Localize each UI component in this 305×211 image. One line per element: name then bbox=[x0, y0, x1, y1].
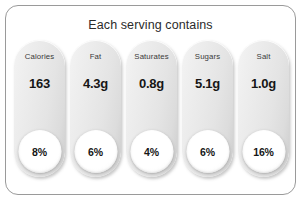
nutrient-label: Sugars bbox=[182, 52, 233, 61]
nutrient-pill-calories: Calories 163 8% bbox=[14, 40, 65, 177]
nutrient-label: Calories bbox=[14, 52, 65, 61]
reference-intake-badge: 6% bbox=[186, 130, 229, 173]
reference-intake-value: 8% bbox=[32, 146, 47, 158]
nutrient-label: Fat bbox=[70, 52, 121, 61]
nutrition-label-panel: Each serving contains Calories 163 8% Fa… bbox=[5, 5, 296, 195]
reference-intake-value: 6% bbox=[88, 146, 103, 158]
nutrient-pill-row: Calories 163 8% Fat 4.3g 6% Saturates 0.… bbox=[14, 40, 289, 180]
nutrient-label: Saturates bbox=[126, 52, 177, 61]
reference-intake-value: 4% bbox=[144, 146, 159, 158]
reference-intake-badge: 16% bbox=[242, 130, 285, 173]
reference-intake-badge: 4% bbox=[130, 130, 173, 173]
nutrient-label: Salt bbox=[238, 52, 289, 61]
reference-intake-value: 16% bbox=[253, 146, 273, 158]
reference-intake-value: 6% bbox=[200, 146, 215, 158]
nutrient-pill-sugars: Sugars 5.1g 6% bbox=[182, 40, 233, 177]
reference-intake-badge: 6% bbox=[74, 130, 117, 173]
nutrient-pill-salt: Salt 1.0g 16% bbox=[238, 40, 289, 177]
nutrient-pill-fat: Fat 4.3g 6% bbox=[70, 40, 121, 177]
nutrient-amount: 1.0g bbox=[238, 76, 289, 91]
reference-intake-badge: 8% bbox=[18, 130, 61, 173]
nutrient-amount: 4.3g bbox=[70, 76, 121, 91]
page-title: Each serving contains bbox=[6, 18, 295, 32]
nutrient-amount: 163 bbox=[14, 76, 65, 91]
nutrient-amount: 0.8g bbox=[126, 76, 177, 91]
nutrient-amount: 5.1g bbox=[182, 76, 233, 91]
nutrient-pill-saturates: Saturates 0.8g 4% bbox=[126, 40, 177, 177]
